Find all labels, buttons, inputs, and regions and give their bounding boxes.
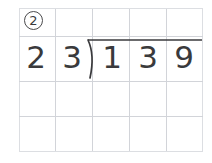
problem-number-badge: 2 xyxy=(24,11,43,30)
grid-line-horizontal xyxy=(19,151,203,152)
long-division-worksheet: 2 2 3 1 3 9 xyxy=(0,0,212,163)
grid-line-vertical xyxy=(202,8,203,152)
grid-line-vertical xyxy=(129,8,130,152)
grid-line-horizontal xyxy=(19,36,203,37)
worksheet-grid xyxy=(19,8,203,152)
grid-line-vertical xyxy=(55,8,56,152)
grid-line-vertical xyxy=(166,8,167,152)
grid-line-horizontal xyxy=(19,8,203,9)
grid-line-vertical xyxy=(92,8,93,152)
grid-line-horizontal xyxy=(19,116,203,117)
grid-line-horizontal xyxy=(19,81,203,82)
grid-line-vertical xyxy=(19,8,20,152)
